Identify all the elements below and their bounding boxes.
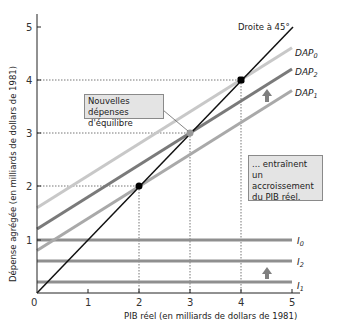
y-tick-3: 3 bbox=[26, 128, 32, 139]
annotation-gdp-increase-line2: un accroissement bbox=[252, 170, 319, 192]
y-tick-5: 5 bbox=[26, 22, 32, 33]
shift-up-arrow-icon bbox=[262, 89, 272, 102]
annotation-gdp-increase: ... entraînent un accroissement du PIB r… bbox=[248, 155, 323, 201]
y-tick-4: 4 bbox=[26, 75, 32, 86]
x-tick-5: 5 bbox=[289, 297, 295, 308]
y-axis-title: Dépense agrégée (en milliards de dollars… bbox=[8, 66, 18, 282]
x-axis-title: PIB réel (en milliards de dollars de 198… bbox=[124, 311, 297, 321]
annotation-new-equilibrium-line2: d'équilibre bbox=[88, 118, 160, 129]
annotation-gdp-increase-line3: du PIB réel. bbox=[252, 192, 319, 203]
label-dap0: DAP0 bbox=[295, 48, 318, 60]
x-tick-0: 0 bbox=[31, 297, 37, 308]
label-i1: I1 bbox=[297, 281, 304, 293]
label-dap2: DAP2 bbox=[295, 67, 318, 79]
x-tick-1: 1 bbox=[85, 297, 91, 308]
label-i0: I0 bbox=[297, 236, 304, 248]
equilibrium-point-4 bbox=[238, 77, 245, 84]
line-dap2 bbox=[37, 69, 292, 229]
annotation-new-equilibrium: Nouvelles dépenses d'équilibre bbox=[84, 94, 164, 119]
x-tick-4: 4 bbox=[238, 297, 244, 308]
label-i2: I2 bbox=[297, 257, 304, 269]
equilibrium-point-2 bbox=[136, 183, 143, 190]
annotation-gdp-increase-line1: ... entraînent bbox=[252, 159, 319, 170]
x-tick-2: 2 bbox=[136, 297, 142, 308]
label-45-degree-line: Droite à 45° bbox=[238, 22, 290, 32]
y-tick-2: 2 bbox=[26, 181, 32, 192]
label-dap1: DAP1 bbox=[295, 88, 318, 100]
y-tick-1: 1 bbox=[26, 235, 32, 246]
shift-up-arrow-icon-investment bbox=[262, 267, 272, 279]
annotation-new-equilibrium-line1: Nouvelles dépenses bbox=[88, 96, 160, 118]
x-tick-3: 3 bbox=[187, 297, 193, 308]
